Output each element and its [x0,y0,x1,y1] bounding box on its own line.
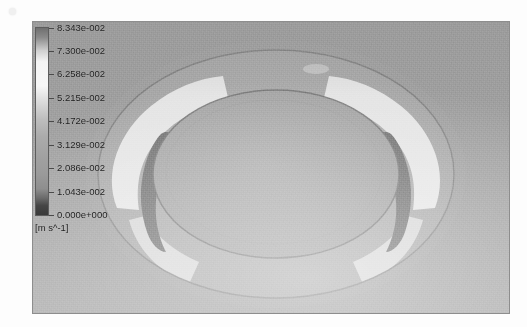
colorbar-tick-2 [49,74,54,75]
colorbar-legend: 8.343e-002 7.300e-002 6.258e-002 5.215e-… [35,27,135,249]
colorbar-tick-6 [49,168,54,169]
colorbar-tick-label-1: 7.300e-002 [57,46,105,56]
colorbar-tick-label-4: 4.172e-002 [57,116,105,126]
inner-core-disc [153,90,399,258]
colorbar-gradient [36,28,48,215]
colorbar-tick-4 [49,121,54,122]
colorbar-tick-label-0: 8.343e-002 [57,23,105,33]
colorbar-tick-label-3: 5.215e-002 [57,93,105,103]
colorbar-tick-label-7: 1.043e-002 [57,187,105,197]
colorbar-units-label: [m s^-1] [35,223,69,233]
contour-plot-panel: 8.343e-002 7.300e-002 6.258e-002 5.215e-… [33,22,509,313]
top-bright-fleck [303,64,329,74]
colorbar-tick-3 [49,98,54,99]
colorbar-tick-5 [49,145,54,146]
colorbar-tick-7 [49,192,54,193]
colorbar-tick-1 [49,51,54,52]
colorbar-tick-label-2: 6.258e-002 [57,69,105,79]
colorbar-tick-label-6: 2.086e-002 [57,163,105,173]
colorbar-tick-0 [49,28,54,29]
colorbar-tick-label-8: 0.000e+000 [57,210,107,220]
colorbar-strip [35,27,49,216]
scan-artifact-speck [9,8,16,15]
colorbar-tick-label-5: 3.129e-002 [57,140,105,150]
figure-page: 8.343e-002 7.300e-002 6.258e-002 5.215e-… [0,0,527,327]
colorbar-tick-8 [49,215,54,216]
